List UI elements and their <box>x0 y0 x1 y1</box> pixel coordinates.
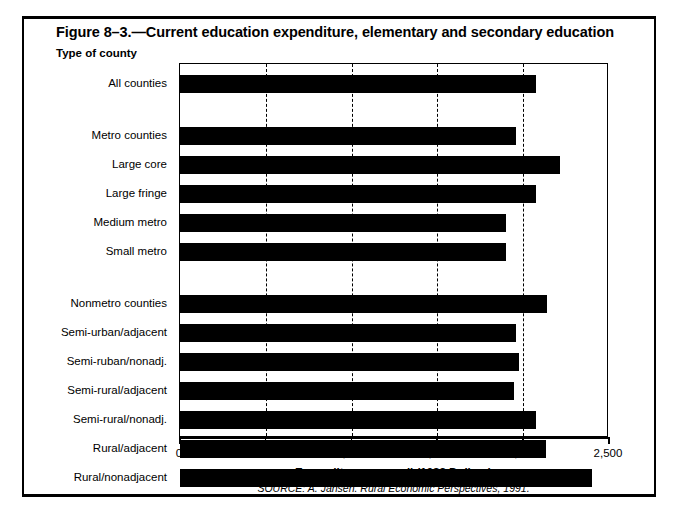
bar-fill <box>180 156 560 174</box>
x-tick-label-1500: 1,500 <box>422 447 451 459</box>
x-tick-1000 <box>351 437 353 444</box>
bar-fill <box>180 411 536 429</box>
category-label-metro-counties: Metro counties <box>92 126 167 144</box>
bar-semi-urban-adjacent <box>180 324 516 342</box>
x-tick-2500 <box>608 437 610 444</box>
category-label-semi-ruban-nonadj: Semi-ruban/nonadj. <box>67 352 167 370</box>
bar-large-fringe <box>180 185 536 203</box>
bar-small-metro <box>180 243 506 261</box>
x-axis-title: Expenditure per pupil (1982 Dollars) <box>179 466 608 478</box>
bar-fill <box>180 353 519 371</box>
bar-metro-counties <box>180 127 516 145</box>
x-tick-500 <box>265 437 267 444</box>
category-label-medium-metro: Medium metro <box>94 213 168 231</box>
bar-fill <box>180 75 536 93</box>
x-tick-label-0: 0 <box>176 447 182 459</box>
bar-fill <box>180 295 547 313</box>
category-label-semi-rural-adjacent: Semi-rural/adjacent <box>67 381 167 399</box>
x-tick-label-1000: 1,000 <box>336 447 365 459</box>
figure-top-rule <box>22 16 656 19</box>
category-label-small-metro: Small metro <box>106 242 167 260</box>
category-label-all-counties: All counties <box>108 74 167 92</box>
x-tick-0 <box>179 437 181 444</box>
x-tick-1500 <box>436 437 438 444</box>
bar-large-core <box>180 156 560 174</box>
bar-fill <box>180 382 514 400</box>
figure-page: Figure 8–3.—Current education expenditur… <box>0 0 677 516</box>
category-label-rural-nonadjacent: Rural/nonadjacent <box>74 468 167 486</box>
x-axis: 05001,0001,5002,0002,500 <box>179 437 608 438</box>
bar-semi-rural-nonadj <box>180 411 536 429</box>
bar-semi-ruban-nonadj <box>180 353 519 371</box>
x-tick-2000 <box>522 437 524 444</box>
category-axis-caption: Type of county <box>56 47 137 59</box>
bar-fill <box>180 127 516 145</box>
category-label-semi-urban-adjacent: Semi-urban/adjacent <box>61 323 167 341</box>
x-tick-label-500: 500 <box>255 447 274 459</box>
bar-series <box>180 64 607 436</box>
x-axis-line <box>179 437 608 439</box>
category-label-nonmetro-counties: Nonmetro counties <box>70 294 167 312</box>
category-label-semi-rural-nonadj: Semi-rural/nonadj. <box>73 410 167 428</box>
bar-fill <box>180 324 516 342</box>
x-tick-label-2000: 2,000 <box>508 447 537 459</box>
x-tick-label-2500: 2,500 <box>594 447 623 459</box>
category-labels: All countiesMetro countiesLarge coreLarg… <box>0 63 174 437</box>
figure-title: Figure 8–3.—Current education expenditur… <box>56 24 614 40</box>
category-label-rural-adjacent: Rural/adjacent <box>93 439 167 457</box>
plot-area <box>179 63 608 437</box>
bar-all-counties <box>180 75 536 93</box>
bar-semi-rural-adjacent <box>180 382 514 400</box>
bar-nonmetro-counties <box>180 295 547 313</box>
bar-fill <box>180 214 506 232</box>
category-label-large-core: Large core <box>112 155 167 173</box>
figure-right-rule <box>654 16 656 497</box>
bar-medium-metro <box>180 214 506 232</box>
source-note: SOURCE: A. Jansen. Rural Economic Perspe… <box>179 482 608 494</box>
figure-bottom-rule <box>22 494 656 497</box>
category-label-large-fringe: Large fringe <box>106 184 167 202</box>
bar-fill <box>180 185 536 203</box>
bar-fill <box>180 243 506 261</box>
